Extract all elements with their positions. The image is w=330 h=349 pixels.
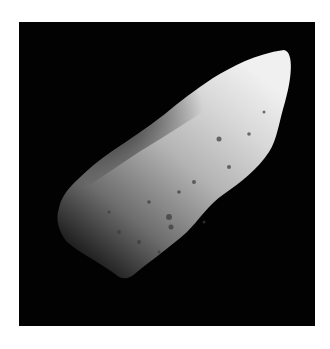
asteroid [19,22,315,326]
space-photo [19,22,315,326]
